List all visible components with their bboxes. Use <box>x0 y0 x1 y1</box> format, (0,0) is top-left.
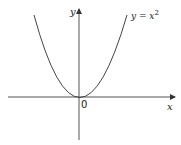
parabola-curve <box>34 15 127 98</box>
x-axis-label: x <box>167 101 173 112</box>
curve-label: y = x2 <box>130 9 159 21</box>
y-axis-label: y <box>69 6 76 17</box>
parabola-graph: y x 0 y = x2 <box>0 0 181 145</box>
origin-label: 0 <box>81 99 87 110</box>
